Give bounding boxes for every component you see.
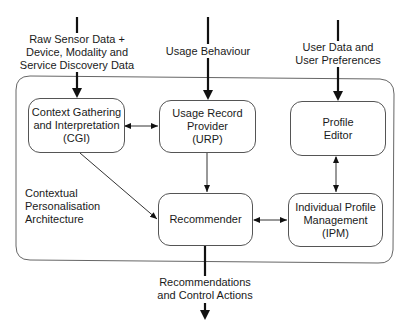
node-urp-label: Usage Record Provider (URP) [172,107,242,146]
node-cgi-label: Context Gathering and Interpretation (CG… [32,106,121,145]
architecture-diagram: Raw Sensor Data + Device, Modality and S… [0,0,410,333]
output-label: Recommendations and Control Actions [150,276,260,302]
node-ipm: Individual Profile Management (IPM) [288,193,383,247]
architecture-label: Contextual Personalisation Architecture [25,187,100,226]
node-cgi: Context Gathering and Interpretation (CG… [28,98,125,153]
node-profile-editor-label: Profile Editor [322,116,353,142]
input-label-usage-behaviour: Usage Behaviour [160,45,256,58]
node-recommender-label: Recommender [169,213,241,226]
node-profile-editor: Profile Editor [290,101,386,156]
input-label-raw-sensor: Raw Sensor Data + Device, Modality and S… [17,33,137,72]
node-recommender: Recommender [158,193,253,246]
node-urp: Usage Record Provider (URP) [159,100,256,153]
input-arrow-usage-behaviour [203,17,213,100]
node-ipm-label: Individual Profile Management (IPM) [295,201,376,240]
input-label-user-data: User Data and User Preferences [290,41,386,67]
